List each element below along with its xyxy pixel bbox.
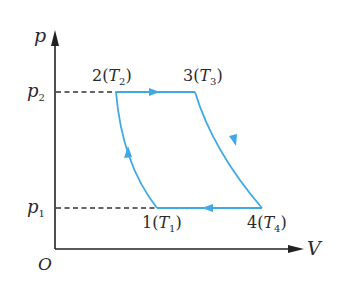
- y-axis-arrow-icon: [51, 30, 59, 46]
- process-3-4: [195, 92, 262, 208]
- point-2-close: ): [125, 66, 131, 85]
- point-1-T: T: [158, 213, 169, 232]
- point-1-num: 1(: [142, 213, 158, 232]
- origin-label: O: [38, 256, 52, 273]
- point-3-label: 3(T3): [183, 68, 223, 87]
- arrow-right-icon: [149, 88, 160, 96]
- p1-base: p: [27, 196, 39, 217]
- cycle: [116, 92, 262, 208]
- pv-diagram: [0, 0, 342, 293]
- point-4-num: 4(: [247, 213, 263, 232]
- point-3-num: 3(: [183, 66, 199, 85]
- p1-sub: 1: [39, 208, 45, 219]
- p2-label: p2: [27, 82, 45, 103]
- point-2-T: T: [108, 66, 119, 85]
- point-2-label: 2(T2): [92, 68, 132, 87]
- point-3-close: ): [216, 66, 222, 85]
- p2-base: p: [27, 80, 39, 101]
- point-1-close: ): [175, 213, 181, 232]
- p2-sub: 2: [39, 92, 45, 103]
- arrow-down-icon: [229, 134, 237, 146]
- y-axis-label: p: [34, 26, 46, 45]
- x-axis-arrow-icon: [288, 245, 304, 253]
- point-4-label: 4(T4): [247, 215, 287, 234]
- x-axis-label: V: [307, 239, 321, 258]
- point-4-close: ): [280, 213, 286, 232]
- point-3-T: T: [199, 66, 210, 85]
- arrow-up-icon: [124, 146, 132, 158]
- point-4-T: T: [263, 213, 274, 232]
- process-1-2: [116, 92, 157, 208]
- point-2-num: 2(: [92, 66, 108, 85]
- p1-label: p1: [27, 198, 45, 219]
- arrow-left-icon: [202, 204, 213, 212]
- point-1-label: 1(T1): [142, 215, 182, 234]
